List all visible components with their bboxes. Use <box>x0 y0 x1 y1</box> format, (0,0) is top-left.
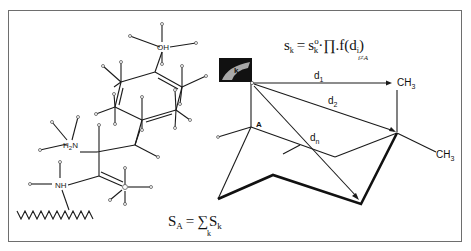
sum-index: k <box>207 229 211 238</box>
svg-text:SA=∑Sk: SA=∑Sk <box>168 213 222 231</box>
site-k-label: k <box>234 66 239 75</box>
amide-nh-label: NH <box>55 181 67 190</box>
svg-text:sk=sok·∏.f(di): sk=sok·∏.f(di) <box>284 36 364 55</box>
hydroxyl-label: OH <box>157 43 169 52</box>
left-molecule <box>17 24 206 219</box>
anchor-a-label: A <box>256 120 262 129</box>
anchor-h-atom <box>217 136 220 139</box>
distance-dn-label: dn <box>310 132 320 145</box>
d2-arrowhead <box>389 127 396 132</box>
equation-anchor-score: SA=∑Sk k <box>168 213 222 238</box>
distance-d2-label: d2 <box>328 95 338 108</box>
methyl-right-label: CH3 <box>436 149 454 162</box>
dn-arrowhead <box>352 193 359 200</box>
right-molecule <box>218 83 436 199</box>
hydrogen-atoms <box>29 23 208 206</box>
diagram-canvas: OH H2N NH k A CH3 CH3 d1 d2 <box>0 0 471 251</box>
equation-site-score: sk=sok·∏.f(di) i≠A <box>284 36 369 62</box>
site-k-atom <box>250 81 253 84</box>
d1-arrowhead <box>386 81 392 86</box>
product-index: i≠A <box>358 54 369 62</box>
site-k-box: k <box>219 58 252 82</box>
methyl-top-label: CH3 <box>397 77 415 90</box>
arrowheads <box>352 81 396 201</box>
amine-label: H2N <box>63 141 78 151</box>
distance-d1-label: d1 <box>314 70 324 83</box>
